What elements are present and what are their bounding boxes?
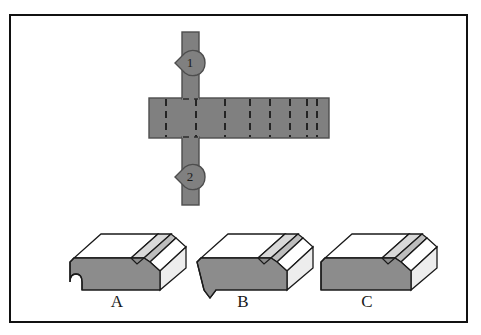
figure-canvas: 1 2 A B C [0,0,481,335]
option-c-label[interactable]: C [355,292,379,312]
option-a-label[interactable]: A [105,292,129,312]
section-marker-2-label: 2 [182,169,198,185]
option-b-label[interactable]: B [231,292,255,312]
section-marker-1-label: 1 [182,55,198,71]
figure-border [9,14,468,323]
